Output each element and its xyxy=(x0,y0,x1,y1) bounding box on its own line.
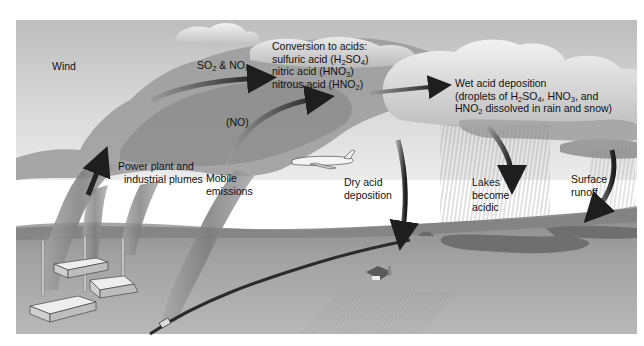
label-conversion-to-acids: Conversion to acids: sulfuric acid (H2SO… xyxy=(272,40,368,90)
conversion-nitric: nitric acid (HNO3) xyxy=(272,65,368,78)
label-power-plant: Power plant and industrial plumes xyxy=(118,160,203,185)
label-no: (NO) xyxy=(226,116,249,129)
label-wet-acid-deposition: Wet acid deposition (droplets of H2SO4, … xyxy=(455,77,612,115)
label-mobile-emissions: Mobile emissions xyxy=(206,172,253,197)
label-wind: Wind xyxy=(52,60,76,73)
label-dry-acid-deposition: Dry acid deposition xyxy=(344,176,392,201)
label-surface-runoff: Surface runoff xyxy=(571,173,607,198)
label-so2-nox: SO2 & NOx xyxy=(197,59,249,72)
conversion-sulfuric: sulfuric acid (H2SO4) xyxy=(272,53,368,66)
label-lakes-acidic: Lakes become acidic xyxy=(472,176,509,214)
conversion-nitrous: nitrous acid (HNO2) xyxy=(272,78,368,91)
conversion-heading: Conversion to acids: xyxy=(272,40,368,53)
